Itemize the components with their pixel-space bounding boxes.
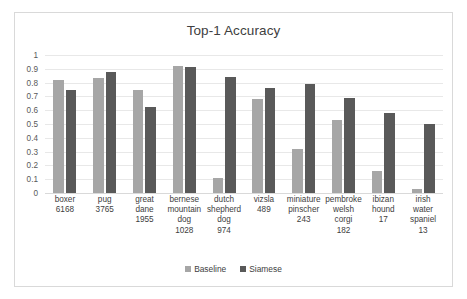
- legend-swatch-icon: [185, 266, 191, 272]
- x-axis-category-label: irishwaterspaniel13: [403, 195, 443, 236]
- category-count: 13: [403, 226, 443, 236]
- y-axis-tick-label: 0.2: [27, 161, 38, 170]
- x-axis-category-label: ibizanhound17: [363, 195, 403, 226]
- x-axis-category-label: pug3765: [85, 195, 125, 215]
- legend-swatch-icon: [240, 266, 246, 272]
- x-axis-category-label: pembrokewelshcorgi182: [324, 195, 364, 236]
- bar-baseline[interactable]: [412, 189, 423, 193]
- category-count: 3765: [85, 205, 125, 215]
- bar-group: [403, 55, 443, 193]
- category-name: bernese: [164, 195, 204, 205]
- x-axis-category-label: miniaturepinscher243: [284, 195, 324, 226]
- category-count: 489: [244, 205, 284, 215]
- chart-container: Top-1 Accuracy 10.90.80.70.60.50.40.30.2…: [14, 12, 453, 287]
- bar-baseline[interactable]: [292, 149, 303, 193]
- category-name: vizsla: [244, 195, 284, 205]
- bar-group: [363, 55, 403, 193]
- x-axis-category-label: boxer6168: [45, 195, 85, 215]
- category-count: 17: [363, 215, 403, 225]
- chart-legend: Baseline Siamese: [15, 264, 452, 274]
- bar-group: [324, 55, 364, 193]
- y-axis-tick-label: 0.5: [27, 120, 38, 129]
- category-count: 1028: [164, 226, 204, 236]
- category-name: shepherd: [204, 205, 244, 215]
- bar-baseline[interactable]: [93, 78, 104, 193]
- category-count: 1955: [125, 215, 165, 225]
- category-name: dutch: [204, 195, 244, 205]
- bar-group: [284, 55, 324, 193]
- legend-item-baseline[interactable]: Baseline: [185, 264, 226, 274]
- bar-group: [85, 55, 125, 193]
- bar-siamese[interactable]: [384, 113, 395, 193]
- bar-siamese[interactable]: [145, 107, 156, 193]
- bar-baseline[interactable]: [173, 66, 184, 193]
- bar-baseline[interactable]: [372, 171, 383, 193]
- bar-baseline[interactable]: [213, 178, 224, 193]
- bar-siamese[interactable]: [424, 124, 435, 193]
- legend-label: Siamese: [249, 264, 282, 274]
- x-axis-category-label: dutchshepherddog974: [204, 195, 244, 236]
- x-axis-category-label: vizsla489: [244, 195, 284, 215]
- y-axis-tick-label: 0.9: [27, 64, 38, 73]
- y-axis-tick-label: 0.3: [27, 147, 38, 156]
- y-axis-tick-label: 1: [33, 51, 38, 60]
- bar-siamese[interactable]: [225, 77, 236, 193]
- category-name: dog: [164, 215, 204, 225]
- bar-group: [164, 55, 204, 193]
- bar-group: [204, 55, 244, 193]
- category-name: dane: [125, 205, 165, 215]
- category-count: 182: [324, 226, 364, 236]
- bar-siamese[interactable]: [265, 88, 276, 193]
- gridline: [45, 193, 443, 194]
- x-axis-labels: boxer6168pug3765greatdane1955bernesemoun…: [45, 195, 443, 257]
- bar-siamese[interactable]: [344, 98, 355, 193]
- bar-group: [125, 55, 165, 193]
- y-axis-tick-label: 0.6: [27, 106, 38, 115]
- legend-label: Baseline: [194, 264, 226, 274]
- category-name: pinscher: [284, 205, 324, 215]
- category-name: dog: [204, 215, 244, 225]
- x-axis-category-label: greatdane1955: [125, 195, 165, 226]
- legend-item-siamese[interactable]: Siamese: [240, 264, 282, 274]
- bar-baseline[interactable]: [332, 120, 343, 193]
- bar-baseline[interactable]: [252, 99, 263, 193]
- x-axis-category-label: bernesemountaindog1028: [164, 195, 204, 236]
- category-count: 243: [284, 215, 324, 225]
- category-name: great: [125, 195, 165, 205]
- category-name: irish: [403, 195, 443, 205]
- category-name: mountain: [164, 205, 204, 215]
- category-count: 6168: [45, 205, 85, 215]
- y-axis-tick-label: 0.4: [27, 133, 38, 142]
- bar-siamese[interactable]: [106, 72, 117, 193]
- category-name: welsh: [324, 205, 364, 215]
- bar-siamese[interactable]: [66, 90, 77, 194]
- bar-group: [244, 55, 284, 193]
- category-name: water: [403, 205, 443, 215]
- y-axis-tick-label: 0.1: [27, 175, 38, 184]
- bar-baseline[interactable]: [53, 80, 64, 193]
- category-name: pembroke: [324, 195, 364, 205]
- category-name: boxer: [45, 195, 85, 205]
- category-name: miniature: [284, 195, 324, 205]
- category-count: 974: [204, 226, 244, 236]
- y-axis: 10.90.80.70.60.50.40.30.20.10: [15, 55, 41, 193]
- category-name: pug: [85, 195, 125, 205]
- y-axis-tick-label: 0.8: [27, 78, 38, 87]
- y-axis-tick-label: 0: [33, 189, 38, 198]
- category-name: hound: [363, 205, 403, 215]
- category-name: ibizan: [363, 195, 403, 205]
- bar-baseline[interactable]: [133, 90, 144, 194]
- bar-siamese[interactable]: [305, 84, 316, 193]
- y-axis-tick-label: 0.7: [27, 92, 38, 101]
- bars-layer: [45, 55, 443, 193]
- category-name: corgi: [324, 215, 364, 225]
- category-name: spaniel: [403, 215, 443, 225]
- bar-group: [45, 55, 85, 193]
- bar-siamese[interactable]: [185, 67, 196, 193]
- chart-title: Top-1 Accuracy: [15, 23, 452, 38]
